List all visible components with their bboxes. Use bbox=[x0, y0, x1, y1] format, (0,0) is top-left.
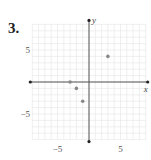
y-axis-top-end-icon bbox=[87, 19, 90, 22]
scatter-chart: xy −555−5 bbox=[0, 0, 151, 160]
y-tick-label: −5 bbox=[20, 109, 30, 119]
x-tick-label: −5 bbox=[53, 144, 63, 154]
y-tick-label: 5 bbox=[26, 45, 31, 55]
x-tick-label: 5 bbox=[118, 144, 123, 154]
data-point bbox=[68, 80, 72, 84]
data-point bbox=[75, 87, 79, 91]
x-axis-label: x bbox=[143, 84, 148, 94]
axes: xy bbox=[29, 15, 150, 143]
x-axis-left-end-icon bbox=[29, 80, 32, 83]
data-point bbox=[106, 55, 110, 59]
y-axis-label: y bbox=[91, 15, 96, 25]
y-axis-bottom-end-icon bbox=[87, 140, 90, 143]
data-point bbox=[81, 99, 85, 103]
